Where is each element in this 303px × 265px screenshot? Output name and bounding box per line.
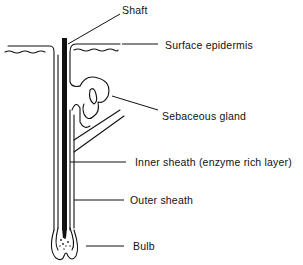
label-bulb: Bulb [133, 240, 155, 252]
epidermis-right-wavy [74, 49, 118, 51]
sebaceous-gland-lobe-lower [72, 104, 90, 127]
sebaceous-gland-outline [80, 77, 109, 119]
label-surface-epidermis: Surface epidermis [165, 39, 253, 51]
label-inner-sheath: Inner sheath (enzyme rich layer) [135, 156, 292, 168]
epidermis-left [8, 46, 54, 230]
sebaceous-gland-inner [90, 89, 97, 104]
hair-root-taper [62, 228, 67, 238]
leader-sebaceous-gland [112, 96, 158, 110]
dermal-papilla [59, 237, 71, 250]
hair-shaft [62, 38, 67, 230]
label-shaft: Shaft [122, 4, 148, 16]
arrector-pili-lower [74, 116, 124, 152]
label-outer-sheath: Outer sheath [130, 194, 193, 206]
label-sebaceous-gland: Sebaceous gland [162, 110, 246, 122]
epidermis-left-wavy [5, 51, 45, 53]
leader-shaft [68, 14, 120, 44]
epidermis-right [70, 44, 120, 87]
hair-follicle-diagram [0, 0, 303, 265]
